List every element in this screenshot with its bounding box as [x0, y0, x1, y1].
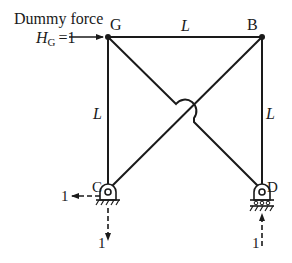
node-label-G: G [110, 16, 122, 33]
force-subscript: G [48, 36, 56, 48]
node-label-B: B [247, 16, 258, 33]
force-value: =1 [59, 29, 76, 46]
force-expression: HG=1 [35, 29, 76, 48]
member-length-left: L [92, 105, 102, 122]
member-length-right: L [265, 105, 275, 122]
frame-members [108, 37, 262, 190]
joint-G [105, 34, 111, 40]
frame-diagram: Dummy force HG=1 G B C D L L L 1 1 1 [0, 0, 292, 263]
joint-B [259, 34, 265, 40]
member-length-top: L [180, 17, 190, 34]
reaction-C-horizontal-label: 1 [61, 188, 69, 204]
node-label-D: D [267, 179, 278, 195]
dummy-force-label: Dummy force [14, 10, 103, 28]
node-label-C: C [92, 179, 102, 195]
reaction-D-vertical-label: 1 [252, 235, 260, 251]
reaction-C-vertical-label: 1 [98, 235, 106, 251]
